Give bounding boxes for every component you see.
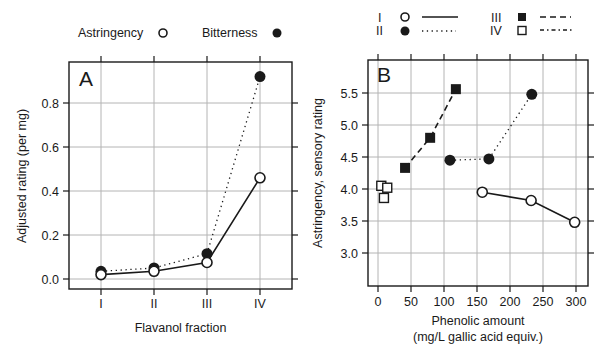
y-axis-title-b: Astringency, sensory rating bbox=[311, 98, 325, 248]
series-line bbox=[101, 77, 260, 272]
x-tick-label: IV bbox=[254, 297, 266, 311]
y-tick-label: 0.2 bbox=[42, 229, 59, 243]
x-tick-label: 300 bbox=[566, 295, 587, 309]
y-tick-label: 0.0 bbox=[42, 273, 59, 287]
open-square-icon bbox=[518, 27, 526, 35]
x-tick-label: I bbox=[99, 297, 102, 311]
y-tick-label: 0.8 bbox=[42, 97, 59, 111]
open-circle-icon bbox=[159, 29, 167, 37]
data-point-open-square bbox=[383, 183, 392, 192]
x-tick-label: 150 bbox=[467, 295, 488, 309]
series-panel-b bbox=[377, 84, 580, 227]
panel-a: IIIIIIIV0.00.20.40.60.8 A Flavanol fract… bbox=[15, 56, 298, 335]
x-axis-title-a: Flavanol fraction bbox=[135, 321, 227, 335]
data-point-filled-square bbox=[451, 84, 461, 94]
x-tick-label: III bbox=[202, 297, 212, 311]
x-tick-label: 0 bbox=[375, 295, 382, 309]
x-tick-label: 100 bbox=[434, 295, 455, 309]
y-tick-label: 4.0 bbox=[341, 183, 358, 197]
data-point-open-circle bbox=[477, 187, 487, 197]
data-point-filled-circle bbox=[526, 89, 537, 100]
data-point-open-circle bbox=[96, 270, 106, 280]
x-axis-subtitle-b: (mg/L gallic acid equiv.) bbox=[413, 330, 543, 344]
legend-label-ii: II bbox=[376, 24, 383, 38]
legend-label-iii: III bbox=[491, 11, 501, 25]
y-tick-label: 5.5 bbox=[341, 87, 358, 101]
data-point-filled-circle bbox=[483, 153, 494, 164]
filled-circle-icon bbox=[401, 27, 410, 36]
data-point-open-square bbox=[379, 193, 388, 202]
filled-square-icon bbox=[518, 13, 526, 21]
legend-label-astringency: Astringency bbox=[78, 26, 144, 40]
filled-circle-icon bbox=[273, 29, 282, 38]
data-point-filled-circle bbox=[444, 155, 455, 166]
y-axis-title-a: Adjusted rating (per mg) bbox=[15, 109, 29, 243]
panel-label-b: B bbox=[377, 63, 391, 86]
legend-label-i: I bbox=[378, 11, 381, 25]
legend-panel-b: I II III IV bbox=[376, 11, 574, 38]
series-line bbox=[101, 178, 260, 275]
data-point-open-circle bbox=[526, 196, 536, 206]
data-point-filled-circle bbox=[255, 71, 266, 82]
data-point-open-circle bbox=[255, 173, 265, 183]
y-tick-label: 4.5 bbox=[341, 151, 358, 165]
figure: Astringency Bitterness I II III IV IIIII… bbox=[0, 0, 615, 363]
series-line bbox=[450, 94, 532, 160]
y-tick-label: 3.5 bbox=[341, 215, 358, 229]
data-point-open-circle bbox=[202, 258, 212, 268]
x-axis-title-b: Phenolic amount bbox=[431, 314, 525, 328]
grid-panel-b bbox=[368, 60, 588, 286]
data-point-open-circle bbox=[570, 217, 580, 227]
y-tick-label: 0.4 bbox=[42, 185, 59, 199]
y-tick-label: 5.0 bbox=[341, 119, 358, 133]
x-tick-label: 250 bbox=[533, 295, 554, 309]
legend-panel-a: Astringency Bitterness bbox=[78, 26, 282, 40]
data-point-open-circle bbox=[149, 266, 159, 276]
y-tick-label: 0.6 bbox=[42, 141, 59, 155]
legend-label-iv: IV bbox=[490, 24, 502, 38]
legend-label-bitterness: Bitterness bbox=[202, 26, 258, 40]
panel-label-a: A bbox=[79, 67, 93, 90]
open-circle-icon bbox=[401, 13, 409, 21]
x-tick-label: II bbox=[151, 297, 158, 311]
panel-b: 0501001502002503003.03.54.04.55.05.5 B P… bbox=[311, 54, 594, 344]
plot-frame-b bbox=[368, 60, 588, 286]
data-point-filled-square bbox=[400, 163, 410, 173]
data-point-filled-square bbox=[425, 133, 435, 143]
y-tick-label: 3.0 bbox=[341, 247, 358, 261]
x-tick-label: 50 bbox=[404, 295, 418, 309]
series-panel-a bbox=[96, 71, 266, 280]
x-tick-label: 200 bbox=[500, 295, 521, 309]
